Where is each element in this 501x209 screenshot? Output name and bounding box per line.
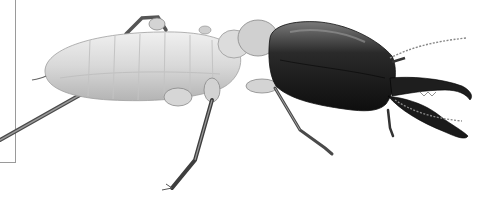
mandibles [388, 77, 472, 138]
middle-leg [162, 78, 220, 190]
termite-illustration [0, 0, 501, 209]
head [269, 22, 395, 111]
upper-leg [126, 17, 166, 34]
